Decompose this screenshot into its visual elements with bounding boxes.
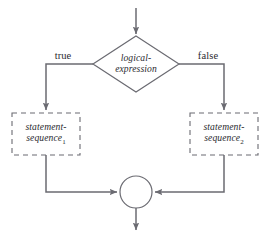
statement-sequence-2-word: sequence: [204, 132, 240, 143]
statement-sequence-2-line2: sequence2: [204, 133, 245, 147]
true-branch-connector: [46, 64, 93, 110]
statement-sequence-1-word: sequence: [26, 132, 62, 143]
false-branch-connector: [179, 64, 224, 110]
statement-sequence-2-subscript: 2: [240, 137, 244, 145]
right-merge-connector: [155, 155, 224, 192]
false-branch-label: false: [198, 50, 218, 62]
flowchart-diagram: logical- expression true false statement…: [0, 0, 270, 244]
statement-sequence-1-subscript: 1: [62, 137, 66, 145]
statement-sequence-2-label: statement- sequence2: [204, 122, 245, 146]
decision-label-line2: expression: [115, 64, 157, 75]
left-merge-connector: [46, 155, 117, 192]
statement-sequence-1-label: statement- sequence1: [26, 122, 67, 146]
true-branch-label: true: [55, 50, 72, 62]
decision-label: logical- expression: [115, 53, 157, 74]
merge-circle: [120, 176, 152, 208]
statement-sequence-1-line2: sequence1: [26, 133, 67, 147]
